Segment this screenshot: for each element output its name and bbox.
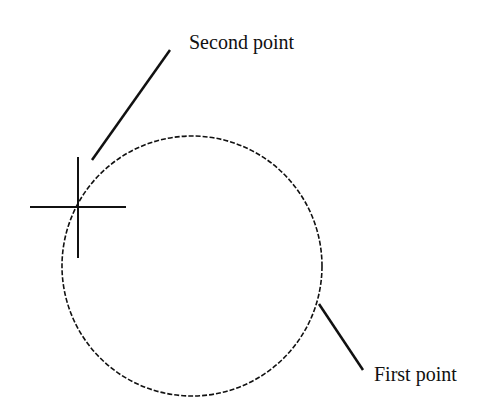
second-point-label: Second point xyxy=(189,32,294,52)
first-point-leader-line xyxy=(319,304,363,370)
diagram-drawing xyxy=(0,0,497,420)
second-point-leader-line xyxy=(92,50,170,160)
first-point-label: First point xyxy=(374,364,457,384)
dashed-circle xyxy=(62,136,322,396)
diagram-canvas: Second point First point xyxy=(0,0,497,420)
crosshair-cursor-icon xyxy=(30,157,126,258)
